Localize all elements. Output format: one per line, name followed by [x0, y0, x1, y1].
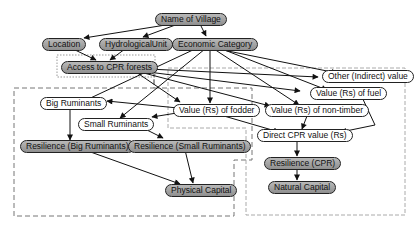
- node-value-fodder: Value (Rs) of fodder: [173, 104, 260, 117]
- node-value-fuel: Value (Rs) of fuel: [310, 87, 387, 100]
- node-hydrological-unit: HydrologicalUnit: [99, 38, 173, 51]
- node-economic-category: Economic Category: [172, 38, 258, 51]
- node-value-non-timber: Value (Rs) of non-timber: [265, 104, 369, 117]
- node-small-ruminants: Small Ruminants: [78, 118, 154, 131]
- node-access-cpr-forests: Access to CPR forests: [61, 61, 158, 74]
- node-name-of-village: Name of Village: [155, 13, 227, 26]
- node-resilience-big-ruminants: Resilience (Big Ruminants): [20, 140, 135, 153]
- node-resilience-cpr: Resilience (CPR): [264, 157, 341, 170]
- node-direct-cpr-value: Direct CPR value (Rs): [257, 129, 353, 142]
- node-resilience-small-ruminants: Resilience (Small Ruminants): [128, 140, 251, 153]
- causal-diagram: Name of Village Location HydrologicalUni…: [0, 0, 416, 226]
- node-natural-capital: Natural Capital: [268, 181, 336, 194]
- node-other-indirect-value: Other (Indirect) value: [322, 70, 414, 83]
- node-location: Location: [42, 38, 86, 51]
- node-big-ruminants: Big Ruminants: [40, 97, 107, 110]
- node-physical-capital: Physical Capital: [165, 184, 237, 197]
